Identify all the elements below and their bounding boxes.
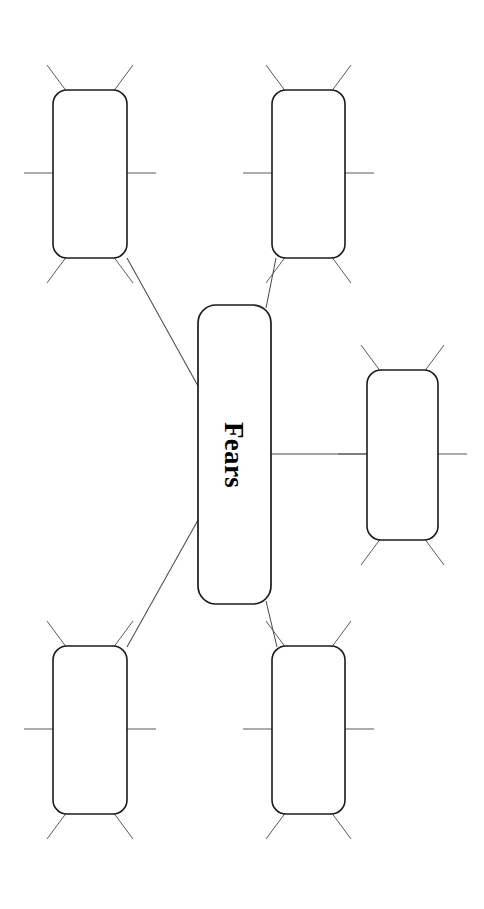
center-node-label: Fears bbox=[219, 422, 249, 488]
ray-bottom-right-upper-right bbox=[331, 621, 351, 648]
ray-top-left-upper-right bbox=[113, 65, 133, 92]
connector-center-to-top-right bbox=[266, 258, 276, 308]
ray-bottom-left-lower-right bbox=[113, 812, 133, 839]
center-node[interactable]: Fears bbox=[198, 305, 271, 604]
ray-right-middle-upper-left bbox=[361, 345, 381, 372]
branch-box-top-left[interactable] bbox=[53, 90, 127, 258]
ray-right-middle-lower-right bbox=[424, 538, 444, 565]
ray-right-middle-lower-left bbox=[361, 538, 381, 565]
ray-right-middle-upper-right bbox=[424, 345, 444, 372]
ray-top-left-lower-left bbox=[47, 256, 67, 283]
branch-node-top-right[interactable] bbox=[243, 65, 374, 283]
ray-bottom-left-lower-left bbox=[47, 812, 67, 839]
ray-top-right-upper-left bbox=[266, 65, 286, 92]
graphic-organizer-canvas: Fears bbox=[0, 0, 484, 909]
branch-node-top-left[interactable] bbox=[24, 65, 156, 283]
branch-box-top-right[interactable] bbox=[272, 90, 345, 258]
connector-center-to-bottom-left bbox=[127, 520, 198, 647]
branch-box-right-middle[interactable] bbox=[367, 370, 438, 540]
ray-bottom-right-lower-right bbox=[331, 812, 351, 839]
ray-bottom-right-lower-left bbox=[266, 812, 286, 839]
ray-top-left-lower-right bbox=[113, 256, 133, 283]
ray-bottom-left-upper-right bbox=[113, 621, 133, 648]
ray-bottom-left-upper-left bbox=[47, 621, 67, 648]
ray-top-left-upper-left bbox=[47, 65, 67, 92]
branch-node-right-middle[interactable] bbox=[338, 345, 467, 565]
ray-top-right-lower-right bbox=[331, 256, 351, 283]
branch-box-bottom-right[interactable] bbox=[272, 646, 345, 814]
connector-center-to-top-left bbox=[127, 258, 198, 386]
branch-node-bottom-left[interactable] bbox=[24, 621, 156, 839]
branch-box-bottom-left[interactable] bbox=[53, 646, 127, 814]
ray-top-right-upper-right bbox=[331, 65, 351, 92]
branch-node-bottom-right[interactable] bbox=[243, 621, 374, 839]
